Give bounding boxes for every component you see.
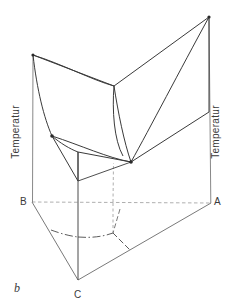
vertex-dot-a-top [207, 15, 210, 18]
back-face-ba [33, 17, 209, 86]
vertex-dot-left-eutectic [50, 134, 54, 138]
projection-curve-right [113, 233, 131, 251]
phase-diagram-svg [0, 0, 234, 308]
corner-label-b: B [20, 197, 27, 207]
base-projection-lines [51, 203, 131, 251]
vertical-edge-b [33, 55, 34, 202]
vertex-dot-right-eutectic [129, 160, 133, 164]
corner-label-a: A [214, 197, 221, 207]
base-edge-ca [78, 203, 211, 280]
axis-label-temperature-right: Temperatur [211, 102, 221, 162]
valley-line-ternary-to-right [78, 152, 131, 162]
liquidus-surfaces [33, 17, 209, 181]
valley-line-left-to-right-eutectic [52, 136, 131, 162]
projection-curve-left [51, 230, 78, 237]
figure-caption-label: b [14, 282, 20, 294]
liquidus-curve-c-center [113, 86, 123, 156]
eutectic-drop-left [52, 136, 78, 181]
axis-label-temperature-left: Temperatur [11, 102, 21, 162]
ternary-phase-diagram-figure: Temperatur Temperatur A B C b [0, 0, 234, 308]
vertex-dot-b-top [31, 53, 34, 56]
projection-curve-center [78, 233, 113, 237]
projection-connector-right-dashed [113, 209, 120, 233]
base-edge-ba-hidden [32, 202, 211, 203]
liquidus-curve-c-right [114, 86, 131, 162]
liquidus-ridge-center-to-a [114, 17, 209, 86]
base-edge-bc [32, 202, 78, 280]
eutectic-plane-base [78, 162, 131, 181]
liquidus-curve-b-left [33, 55, 52, 136]
corner-label-c: C [74, 290, 81, 300]
liquidus-curve-a-front [131, 17, 209, 162]
eutectic-line-right-to-a [131, 112, 209, 162]
